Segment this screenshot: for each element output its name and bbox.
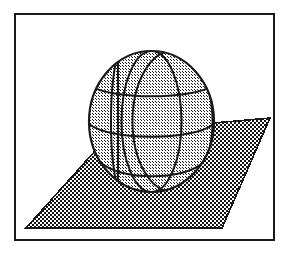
wireframe-sphere: [89, 51, 214, 192]
figure-container: [0, 0, 289, 254]
figure-svg: [0, 0, 289, 254]
